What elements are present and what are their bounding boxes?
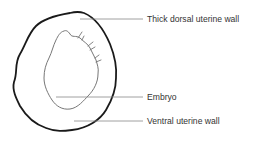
label-embryo: Embryo bbox=[147, 92, 177, 102]
label-thick-dorsal-uterine-wall: Thick dorsal uterine wall bbox=[147, 14, 239, 24]
label-ventral-uterine-wall: Ventral uterine wall bbox=[147, 116, 220, 126]
outer-uterine-wall bbox=[13, 12, 116, 131]
